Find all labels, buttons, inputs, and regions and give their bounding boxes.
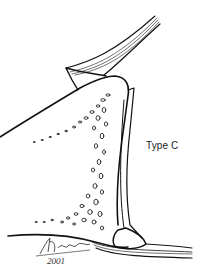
- cortex-inner: [121, 100, 124, 228]
- joint-node: [113, 228, 146, 249]
- cancellous-bone-pattern: [33, 94, 110, 230]
- type-label: Type C: [146, 140, 178, 151]
- anatomical-illustration: [0, 0, 204, 276]
- signature-year: 2001: [47, 256, 65, 266]
- bone-outline-top: [0, 76, 128, 225]
- artist-signature-icon: [32, 236, 92, 258]
- tendon-strands: [66, 16, 160, 75]
- cortex-line: [127, 88, 142, 238]
